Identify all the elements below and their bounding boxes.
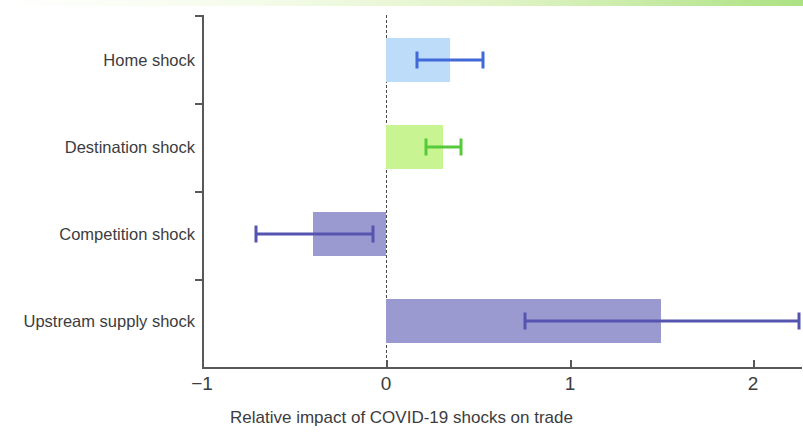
error-bar-cap-high-home-shock [482,52,485,69]
error-bar-line-home-shock [417,59,483,62]
error-bar-cap-low-competition-shock [254,226,257,243]
error-bar-line-destination-shock [426,146,461,149]
x-axis-tick [202,360,204,368]
y-axis-tick [195,15,203,17]
error-bar-cap-low-home-shock [416,52,419,69]
error-bar-cap-high-upstream-supply-shock [797,313,800,330]
category-label-destination-shock: Destination shock [65,139,195,156]
x-axis-line [202,367,802,369]
category-label-home-shock: Home shock [103,52,195,69]
x-tick-label-1: 1 [565,374,576,393]
y-axis-tick [195,279,203,281]
y-axis-tick [195,103,203,105]
x-axis-title: Relative impact of COVID-19 shocks on tr… [0,409,803,426]
category-label-competition-shock: Competition shock [59,226,195,243]
error-bar-line-competition-shock [256,233,373,236]
error-bar-cap-low-upstream-supply-shock [524,313,527,330]
figure-root: Home shock Destination shock Competition… [0,0,803,437]
category-label-upstream-supply-shock: Upstream supply shock [24,313,196,330]
y-axis-tick [195,191,203,193]
x-tick-label-2: 2 [748,374,759,393]
bar-chart-plot-area: Home shock Destination shock Competition… [0,0,803,437]
error-bar-cap-high-competition-shock [372,226,375,243]
x-axis-tick [753,360,755,368]
x-axis-tick [386,360,388,368]
x-tick-label-minus-1: −1 [191,374,213,393]
error-bar-cap-low-destination-shock [425,139,428,156]
error-bar-cap-high-destination-shock [460,139,463,156]
error-bar-line-upstream-supply-shock [525,320,798,323]
x-axis-tick [570,360,572,368]
x-tick-label-0: 0 [381,374,392,393]
